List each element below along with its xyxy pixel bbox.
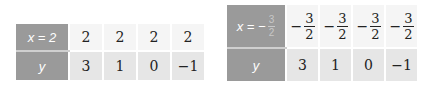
x-header: x = − 3 2 xyxy=(227,5,286,48)
x-cell: 2 xyxy=(137,24,171,51)
minus-sign: − xyxy=(323,18,335,34)
y-cell: 3 xyxy=(286,48,319,81)
y-cell: 1 xyxy=(103,51,137,80)
y-row: y 3 1 0 −1 xyxy=(227,48,417,81)
fraction-numerator: 3 xyxy=(304,12,314,27)
fraction-numerator: 3 xyxy=(337,12,347,27)
x-cell: −32 xyxy=(385,5,417,48)
x-cell: 2 xyxy=(69,24,103,51)
y-cell: −1 xyxy=(385,48,417,81)
y-row: y 3 1 0 −1 xyxy=(16,51,204,80)
y-cell: 1 xyxy=(319,48,352,81)
x-cell: −32 xyxy=(352,5,385,48)
minus-sign: − xyxy=(389,18,401,34)
x-row: x = − 3 2 −32 −32 −32 −32 xyxy=(227,5,417,48)
header-prefix: x = − xyxy=(237,19,266,34)
x-cell: 2 xyxy=(103,24,137,51)
minus-sign: − xyxy=(290,18,302,34)
fraction-denominator: 2 xyxy=(269,27,275,38)
fraction-numerator: 3 xyxy=(268,15,276,27)
y-header: y xyxy=(227,48,286,81)
y-header: y xyxy=(16,51,69,80)
x-cell: 2 xyxy=(171,24,204,51)
fraction-denominator: 2 xyxy=(338,27,346,41)
y-cell: −1 xyxy=(171,51,204,80)
x-header: x = 2 xyxy=(16,24,69,51)
y-cell: 0 xyxy=(352,48,385,81)
table-x-equals-neg-three-halves: x = − 3 2 −32 −32 −32 −32 y 3 1 0 −1 xyxy=(227,5,417,81)
header-fraction: x = − 3 2 xyxy=(237,15,275,38)
minus-sign: − xyxy=(356,18,368,34)
fraction-numerator: 3 xyxy=(403,12,413,27)
y-cell: 0 xyxy=(137,51,171,80)
fraction-denominator: 2 xyxy=(371,27,379,41)
table-x-equals-2: x = 2 2 2 2 2 y 3 1 0 −1 xyxy=(16,24,204,80)
x-row: x = 2 2 2 2 2 xyxy=(16,24,204,51)
x-cell: −32 xyxy=(319,5,352,48)
y-cell: 3 xyxy=(69,51,103,80)
fraction-denominator: 2 xyxy=(305,27,313,41)
x-cell: −32 xyxy=(286,5,319,48)
fraction-numerator: 3 xyxy=(370,12,380,27)
fraction-denominator: 2 xyxy=(404,27,412,41)
